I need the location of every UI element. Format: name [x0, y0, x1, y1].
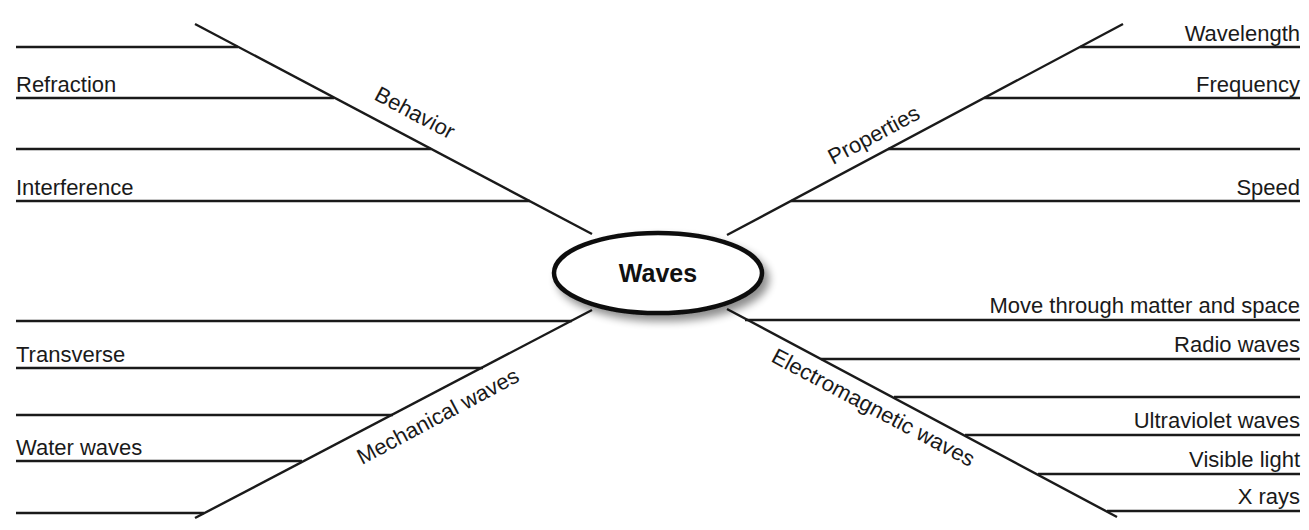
properties-label-frequency: Frequency [1196, 72, 1300, 97]
branch-spine-properties [727, 24, 1123, 235]
branch-electromagnetic-waves: Move through matter and space Radio wave… [727, 293, 1300, 517]
electromagnetic-label-x-rays: X rays [1238, 484, 1300, 509]
branch-label-electromagnetic-waves: Electromagnetic waves [768, 343, 979, 471]
behavior-label-refraction: Refraction [16, 72, 116, 97]
branch-spine-electromagnetic [727, 309, 1117, 517]
electromagnetic-label-move-through: Move through matter and space [989, 293, 1300, 318]
mechanical-label-transverse: Transverse [16, 342, 125, 367]
mechanical-label-water-waves: Water waves [16, 435, 142, 460]
branch-properties: Wavelength Frequency Speed Properties [727, 21, 1300, 235]
branch-mechanical-waves: Transverse Water waves Mechanical waves [16, 310, 592, 518]
electromagnetic-label-ultraviolet: Ultraviolet waves [1134, 408, 1300, 433]
branch-behavior: Refraction Interference Behavior [16, 24, 592, 234]
electromagnetic-label-visible-light: Visible light [1189, 447, 1300, 472]
behavior-label-interference: Interference [16, 175, 133, 200]
center-node[interactable]: Waves [554, 233, 762, 313]
branch-label-behavior: Behavior [371, 81, 459, 144]
waves-concept-map: Refraction Interference Behavior Wavelen… [0, 0, 1309, 530]
branch-label-properties: Properties [824, 100, 924, 169]
properties-label-wavelength: Wavelength [1185, 21, 1300, 46]
electromagnetic-label-radio-waves: Radio waves [1174, 332, 1300, 357]
center-label: Waves [619, 259, 697, 287]
branch-spine-behavior [195, 24, 592, 234]
properties-label-speed: Speed [1236, 175, 1300, 200]
